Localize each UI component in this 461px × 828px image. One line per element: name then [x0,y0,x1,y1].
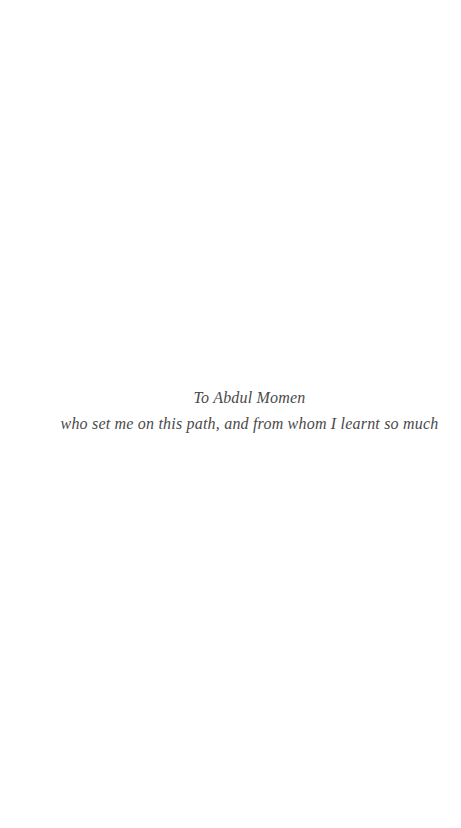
book-dedication-page: To Abdul Momen who set me on this path, … [0,0,461,828]
dedication-line-1: To Abdul Momen [19,385,461,411]
dedication-text-block: To Abdul Momen who set me on this path, … [19,385,461,437]
dedication-line-2: who set me on this path, and from whom I… [19,411,461,437]
